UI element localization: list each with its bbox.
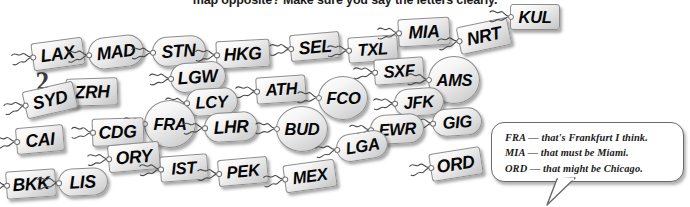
tag-eyelet-icon: [168, 76, 174, 82]
airport-code-label: SXF: [383, 61, 415, 80]
tag-eyelet-icon: [150, 50, 156, 56]
instruction-text: map opposite? Make sure you say the lett…: [0, 0, 690, 7]
luggage-tag: KUL: [510, 4, 560, 30]
tag-eyelet-icon: [346, 47, 352, 53]
luggage-tag: SEL: [289, 31, 341, 62]
tag-eyelet-icon: [214, 52, 220, 58]
tag-eyelet-icon: [30, 54, 37, 61]
luggage-tag: IST: [159, 153, 209, 182]
tag-eyelet-icon: [426, 77, 432, 83]
luggage-tag: ORD: [428, 146, 484, 182]
tag-eyelet-icon: [22, 102, 29, 109]
airport-code-label: BUD: [285, 121, 320, 138]
airport-code-label: CDG: [99, 122, 138, 141]
luggage-tag: GIG: [431, 106, 483, 137]
airport-code-label: BKK: [12, 174, 50, 195]
airport-code-label: TXL: [357, 39, 388, 58]
airport-code-label: ORD: [436, 152, 476, 176]
luggage-tag: BUD: [276, 106, 328, 152]
luggage-tag: MEX: [282, 159, 337, 194]
tag-eyelet-icon: [86, 52, 93, 59]
tag-eyelet-icon: [396, 30, 402, 36]
tag-eyelet-icon: [90, 130, 96, 136]
airport-code-label: GIG: [442, 112, 472, 131]
airport-code-label: MAD: [96, 41, 137, 64]
tag-eyelet-icon: [106, 156, 113, 163]
airport-code-label: LHR: [213, 117, 249, 137]
tag-eyelet-icon: [282, 176, 289, 183]
tag-eyelet-icon: [372, 69, 378, 75]
bubble-line: FRA — that's Frankfurt I think.: [505, 130, 683, 145]
airport-code-label: IST: [171, 159, 197, 178]
airport-code-label: LAX: [40, 43, 76, 66]
luggage-tag: ORY: [107, 141, 161, 173]
luggage-tag: SYD: [22, 81, 79, 120]
luggage-tag: HKG: [215, 39, 270, 70]
tag-eyelet-icon: [274, 126, 280, 132]
tag-eyelet-icon: [316, 95, 322, 101]
tag-eyelet-icon: [202, 125, 208, 131]
bubble-line: ORD — that might be Chicago.: [505, 161, 683, 176]
luggage-tag: LIS: [57, 167, 108, 198]
tag-eyelet-icon: [508, 14, 514, 20]
airport-code-label: CAI: [25, 129, 56, 149]
luggage-tag: LGA: [334, 128, 390, 164]
airport-code-label: LCY: [196, 93, 229, 112]
airport-code-label: SEL: [298, 36, 333, 57]
luggage-tag: SXF: [373, 56, 425, 85]
luggage-tag: LAX: [30, 37, 85, 72]
airport-code-label: NRT: [465, 24, 503, 49]
airport-code-label: ORY: [115, 146, 153, 167]
tag-eyelet-icon: [288, 45, 295, 52]
airport-code-label: HKG: [224, 44, 263, 64]
tag-eyelet-icon: [456, 38, 463, 45]
tag-eyelet-icon: [4, 182, 10, 188]
tag-eyelet-icon: [216, 170, 223, 177]
tag-eyelet-icon: [56, 180, 62, 186]
airport-code-label: MIA: [408, 22, 440, 42]
luggage-tags-illustration: map opposite? Make sure you say the lett…: [0, 0, 690, 207]
luggage-tag: MAD: [86, 33, 145, 72]
airport-code-label: AMS: [436, 72, 472, 89]
tag-eyelet-icon: [334, 146, 341, 153]
airport-code-label: SYD: [31, 87, 69, 112]
tag-eyelet-icon: [14, 138, 21, 145]
luggage-tag: MIA: [397, 17, 450, 48]
airport-code-label: FRA: [153, 116, 186, 133]
bubble-line: MIA — that must be Miami.: [505, 145, 683, 160]
speech-bubble-tail: [545, 178, 585, 206]
luggage-tag: BKK: [5, 168, 57, 199]
airport-code-label: ATH: [265, 80, 298, 99]
airport-code-label: ZRH: [74, 82, 110, 101]
luggage-tag: LHR: [203, 111, 258, 144]
airport-code-label: LIS: [69, 172, 96, 191]
tag-eyelet-icon: [430, 120, 436, 126]
luggage-tag: FCO: [318, 76, 368, 120]
airport-code-label: LGW: [177, 67, 218, 88]
airport-code-label: PEK: [226, 162, 260, 182]
airport-code-label: MEX: [292, 165, 329, 187]
airport-code-label: KUL: [518, 9, 551, 26]
tag-eyelet-icon: [428, 164, 435, 171]
airport-code-label: LGA: [344, 135, 380, 157]
luggage-tag: PEK: [217, 156, 269, 187]
airport-code-label: FCO: [326, 90, 360, 107]
luggage-tag: CAI: [15, 124, 65, 155]
tag-eyelet-icon: [254, 88, 260, 94]
tag-eyelet-icon: [392, 100, 398, 106]
airport-code-label: STN: [161, 41, 196, 61]
speech-bubble: FRA — that's Frankfurt I think. MIA — th…: [491, 122, 684, 182]
airport-code-label: JFK: [403, 92, 434, 111]
luggage-tag: NRT: [456, 17, 513, 55]
tag-eyelet-icon: [158, 166, 164, 172]
luggage-tag: ATH: [255, 74, 307, 104]
